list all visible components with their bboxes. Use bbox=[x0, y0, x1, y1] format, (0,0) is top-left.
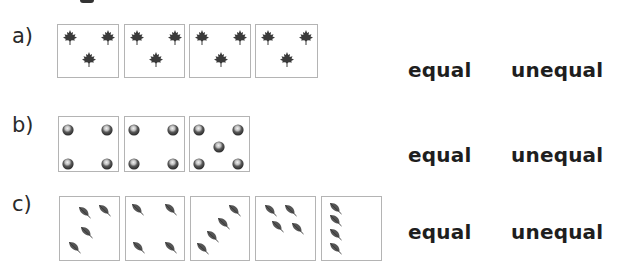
picture-box bbox=[321, 196, 382, 261]
choice-unequal-a[interactable]: unequal bbox=[511, 60, 603, 80]
leaf-icon bbox=[164, 240, 178, 259]
leaf-icon bbox=[271, 219, 285, 238]
leaf-icon bbox=[98, 203, 112, 222]
choice-equal-b[interactable]: equal bbox=[408, 145, 471, 165]
maple-leaf-icon bbox=[168, 30, 182, 49]
question-label-c: c) bbox=[12, 194, 32, 215]
leaf-icon bbox=[284, 203, 298, 222]
cropped-heading-fragment bbox=[80, 0, 94, 3]
leaf-icon bbox=[78, 205, 92, 224]
picture-box bbox=[189, 116, 250, 172]
maple-leaf-icon bbox=[299, 30, 313, 49]
chestnut-icon bbox=[232, 121, 244, 140]
question-label-b: b) bbox=[12, 115, 34, 136]
maple-leaf-icon bbox=[63, 30, 77, 49]
chestnut-icon bbox=[213, 138, 225, 157]
chestnut-icon bbox=[101, 121, 113, 140]
maple-leaf-icon bbox=[233, 30, 247, 49]
choice-equal-c[interactable]: equal bbox=[408, 222, 471, 242]
chestnut-icon bbox=[62, 121, 74, 140]
leaf-icon bbox=[68, 240, 82, 259]
picture-box bbox=[255, 196, 316, 261]
maple-leaf-icon bbox=[82, 52, 96, 71]
picture-box bbox=[124, 24, 185, 78]
maple-leaf-icon bbox=[101, 30, 115, 49]
choice-unequal-b[interactable]: unequal bbox=[511, 145, 603, 165]
picture-box bbox=[255, 24, 318, 78]
picture-box bbox=[58, 116, 119, 172]
picture-box bbox=[57, 24, 119, 78]
leaf-icon bbox=[131, 202, 145, 221]
chestnut-icon bbox=[128, 155, 140, 174]
picture-box bbox=[124, 116, 185, 172]
chestnut-icon bbox=[62, 155, 74, 174]
maple-leaf-icon bbox=[130, 30, 144, 49]
chestnut-icon bbox=[128, 121, 140, 140]
maple-leaf-icon bbox=[280, 52, 294, 71]
picture-box bbox=[59, 196, 120, 261]
chestnut-icon bbox=[167, 155, 179, 174]
maple-leaf-icon bbox=[195, 30, 209, 49]
choice-unequal-c[interactable]: unequal bbox=[511, 222, 603, 242]
leaf-icon bbox=[291, 221, 305, 240]
question-label-a: a) bbox=[12, 26, 33, 47]
choice-equal-a[interactable]: equal bbox=[408, 60, 471, 80]
maple-leaf-icon bbox=[149, 52, 163, 71]
picture-box bbox=[125, 196, 185, 261]
maple-leaf-icon bbox=[261, 30, 275, 49]
chestnut-icon bbox=[193, 155, 205, 174]
picture-box bbox=[189, 24, 251, 78]
chestnut-icon bbox=[101, 155, 113, 174]
leaf-icon bbox=[164, 202, 178, 221]
leaf-icon bbox=[80, 225, 94, 244]
leaf-icon bbox=[196, 241, 210, 260]
leaf-icon bbox=[329, 241, 343, 260]
chestnut-icon bbox=[232, 155, 244, 174]
picture-box bbox=[190, 196, 250, 261]
chestnut-icon bbox=[167, 121, 179, 140]
chestnut-icon bbox=[193, 121, 205, 140]
maple-leaf-icon bbox=[214, 52, 228, 71]
leaf-icon bbox=[132, 240, 146, 259]
